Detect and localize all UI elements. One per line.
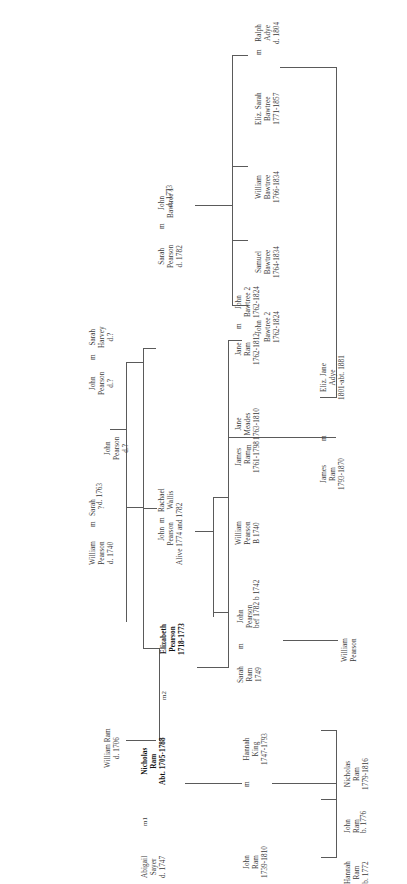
person-dates: bef 1782 b 1742 xyxy=(253,580,262,628)
person-dates: d.? xyxy=(107,372,116,395)
person-name-line2: Bawtree xyxy=(264,171,273,203)
person-name-line1: William xyxy=(235,521,244,545)
person-name-line1: John xyxy=(89,372,98,395)
person-dates: 1762-1812 xyxy=(253,333,262,365)
person-name-line2: Pearson xyxy=(167,245,176,268)
person-hannah-ram-1772[interactable]: Hannah Ram b. 1772 xyxy=(344,861,372,884)
person-william-bawtree[interactable]: William Bawtree 1766-1834 xyxy=(255,171,283,203)
marriage-symbol: m xyxy=(237,643,246,649)
connector-nicholas-m1-to-john-ram xyxy=(185,783,242,784)
person-nicholas-ram-1779[interactable]: Nicholas Ram 1779-1816 xyxy=(344,758,372,790)
person-name-line2: Ram xyxy=(353,861,362,884)
person-abigail-sayer[interactable]: Abigail Sayer d. 1747 xyxy=(141,856,169,878)
person-dates: d. 1740 xyxy=(107,541,116,565)
person-eliz-sarah-bawtree[interactable]: Eliz. Sarah Bawtree 1771-1857 xyxy=(255,92,283,125)
connector-ram-children-spine xyxy=(336,730,337,857)
person-john-pearson-harvey[interactable]: John Pearson d.? xyxy=(89,372,117,395)
person-name-line2: Pearson xyxy=(113,437,122,460)
person-name-line2: Meades xyxy=(244,408,253,440)
person-name-line2: Bawtree 2 xyxy=(244,286,253,318)
person-name-line1: Nicholas xyxy=(141,737,150,785)
person-james-ram-1793[interactable]: James Ram 1793-1870 xyxy=(320,458,348,490)
person-john-bawtree-1-dates: d. 1773 xyxy=(166,185,175,207)
marriage-symbol: m xyxy=(89,521,98,527)
person-name-line1: Ralph xyxy=(255,22,264,44)
marriage-symbol: m xyxy=(158,223,167,229)
marriage-symbol-sarah-bawtree: m xyxy=(158,223,167,229)
person-john-bawtree-2-spouse[interactable]: John Bawtree 2 1762-1824 xyxy=(235,286,263,318)
person-john-ram-1739[interactable]: John Ram 1739-1810 xyxy=(243,846,271,878)
person-john-pearson-b1742-dates: bef 1782 b 1742 xyxy=(253,580,262,628)
person-name-line1: John xyxy=(243,846,252,878)
connector-to-nicholas-1779 xyxy=(321,730,337,731)
person-dates: d. 1763 xyxy=(96,483,105,505)
connector-adye-spine xyxy=(336,67,337,397)
connector-level2-to-elizabeth xyxy=(143,648,159,649)
person-eliz-jane-adye[interactable]: Eliz. Jane Adye 1801-abt. 1881 xyxy=(320,355,348,400)
person-name-line1: Elizabeth xyxy=(160,623,169,655)
person-name-line1: Rachael xyxy=(158,488,167,512)
person-jane-meades[interactable]: Jane Meades 1763-1810 xyxy=(235,408,263,440)
person-hannah-king[interactable]: Hannah King 1747-1793 xyxy=(243,733,271,765)
person-elizabeth-pearson[interactable]: Elizabeth Pearson 1718-1773 xyxy=(160,623,188,655)
person-john-pearson-root[interactable]: John Pearson d.? xyxy=(104,437,132,460)
connector-john-ram-marriage-to-children xyxy=(272,783,336,784)
marriage-symbol-james-eliz: m xyxy=(320,435,329,441)
person-william-pearson-b1740[interactable]: William Pearson B 1740 xyxy=(235,521,263,545)
connector-ram-spine-to-sarah xyxy=(197,667,229,668)
person-name-line1: Sarah xyxy=(158,245,167,268)
person-name-line2: Ram xyxy=(252,846,261,878)
connector-bawtree-sibling-spine xyxy=(232,55,233,305)
connector-ram-sibling-spine xyxy=(228,437,229,667)
marriage-symbol-john-rachael: m xyxy=(158,517,167,523)
connector-john-rachael-stem xyxy=(195,531,213,532)
person-dates: 1793-1870 xyxy=(338,458,347,490)
connector-pearson-root-stem xyxy=(110,429,127,430)
person-nicholas-ram[interactable]: Nicholas Ram Abt. 1705-1788 xyxy=(141,737,169,785)
person-name-line2: Sayer xyxy=(150,856,159,878)
person-name-line1: Jane xyxy=(235,408,244,440)
marriage-marker-m2: m2 xyxy=(160,691,169,700)
connector-to-john-1776 xyxy=(321,799,337,800)
marriage-symbol-jane-john-bawtree: m xyxy=(235,323,244,329)
marker-label: m2 xyxy=(160,691,168,700)
person-jane-ram-1762[interactable]: Jane Ram 1762-1812 xyxy=(235,333,263,365)
person-name-line2: Ram xyxy=(246,666,255,683)
person-samuel-bawtree[interactable]: Samuel Bawtree 1764-1834 xyxy=(255,246,283,278)
person-name-line2: Pearson xyxy=(169,623,178,655)
person-ralph-adye[interactable]: Ralph Adye d. 1804 xyxy=(255,22,283,44)
person-name-line2: Wallis xyxy=(167,488,176,512)
connector-john-rachael-children-spine xyxy=(213,497,214,617)
person-name-line1: Jane xyxy=(235,333,244,365)
person-dates: 1749 xyxy=(255,666,264,683)
person-name-line2: Adye xyxy=(329,355,338,400)
person-name-line1: William xyxy=(89,541,98,565)
person-name-line2: Bawtree xyxy=(264,92,273,125)
connector-sarah-john-to-william-child xyxy=(283,640,338,641)
person-sarah-ram-1749[interactable]: Sarah Ram 1749 xyxy=(237,666,265,683)
person-william-pearson-1740[interactable]: William Pearson d. 1740 xyxy=(89,541,117,565)
person-dates: 1739-1810 xyxy=(261,846,270,878)
person-dates: 1766-1834 xyxy=(273,171,282,203)
person-rachael-wallis[interactable]: Rachael Wallis xyxy=(158,488,176,512)
person-sarah-unknown-dates: d. 1763 xyxy=(96,483,105,505)
person-dates: 1779-1816 xyxy=(362,758,371,790)
person-name-line2: Bawtree xyxy=(264,246,273,278)
person-dates: d. 1747 xyxy=(159,856,168,878)
person-dates: 1761-1798 xyxy=(253,441,262,473)
person-name-line2: Ram xyxy=(329,458,338,490)
person-name-line1: John xyxy=(344,819,353,833)
marker-label: m1 xyxy=(141,817,149,826)
person-william-pearson-child[interactable]: William Pearson xyxy=(341,638,359,662)
person-sarah-harvey[interactable]: Sarah Harvey d.? xyxy=(89,326,117,348)
marriage-symbol-john-ram-hannah-king: m xyxy=(243,781,252,787)
connector-to-william-pearson-b1740 xyxy=(213,497,228,498)
person-name-line2: Pearson xyxy=(98,541,107,565)
person-william-ram-1706[interactable]: William Ram d. 1706 xyxy=(104,728,122,768)
marriage-symbol-eliz-ralph: m xyxy=(255,49,264,55)
person-dates: 1764-1834 xyxy=(273,246,282,278)
person-name-line2: Adye xyxy=(264,22,273,44)
marriage-symbol: m xyxy=(89,354,98,360)
person-dates: 1762-1824 xyxy=(253,286,262,318)
person-sarah-pearson-1782[interactable]: Sarah Pearson d. 1782 xyxy=(158,245,186,268)
